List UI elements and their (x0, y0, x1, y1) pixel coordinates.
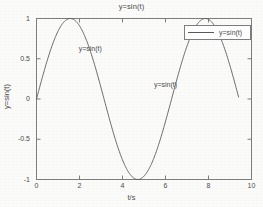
x-tick-label: 10 (242, 182, 262, 189)
plot-annotation: y=sin(t) (79, 45, 102, 52)
x-tick-label: 6 (156, 182, 176, 189)
y-axis-ticks (37, 19, 252, 180)
x-tick-label: 0 (27, 182, 47, 189)
x-tick-label: 4 (113, 182, 133, 189)
legend-box[interactable]: y=sin(t) (184, 25, 251, 40)
x-tick-label: 2 (70, 182, 90, 189)
x-axis-ticks (37, 19, 252, 180)
legend-line-sample (188, 32, 214, 33)
axes-box (37, 19, 252, 180)
series-line-sine (37, 19, 239, 180)
y-axis-label: y=sin(t) (2, 67, 11, 127)
y-tick-label: 1 (8, 15, 30, 22)
x-axis-label: t/s (0, 193, 263, 202)
x-tick-label: 8 (199, 182, 219, 189)
legend-label: y=sin(t) (219, 29, 242, 36)
y-tick-label: 0 (8, 95, 30, 102)
plot-annotation: y=sin(t) (154, 81, 177, 88)
y-tick-label: 0.5 (8, 55, 30, 62)
y-tick-label: -1 (8, 176, 30, 183)
figure-canvas: y=sin(t) 0246810 -1-0.500.51 t/s y=sin(t… (0, 0, 263, 207)
y-tick-label: -0.5 (8, 135, 30, 142)
